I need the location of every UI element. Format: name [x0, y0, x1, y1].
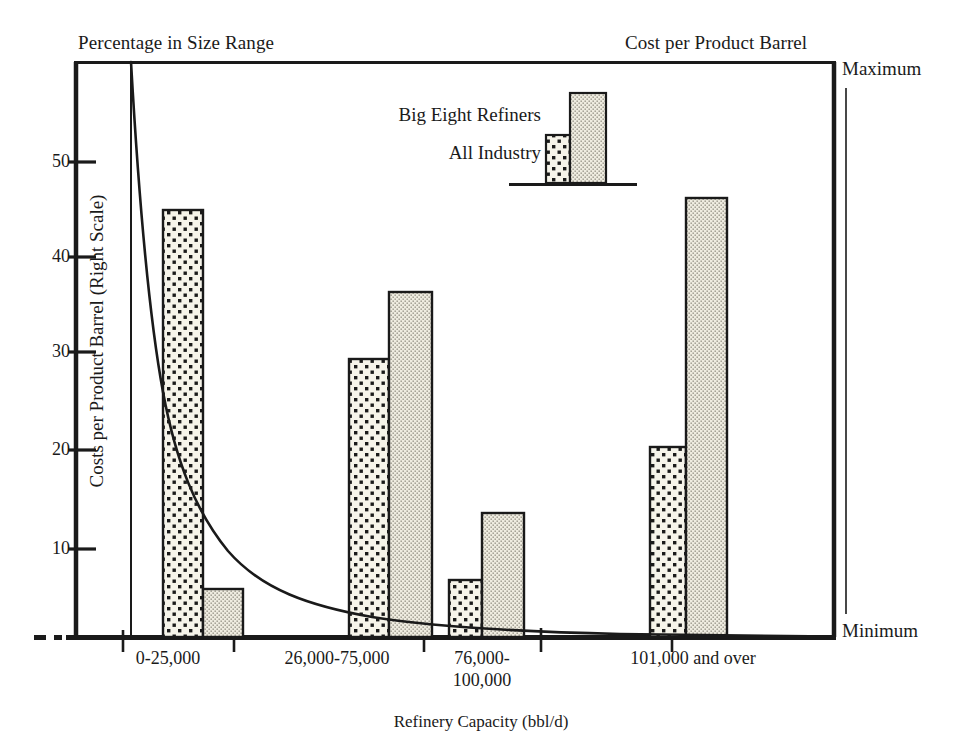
bar-big-eight-2	[482, 513, 524, 637]
legend-swatches	[509, 93, 637, 185]
bar-big-eight-1	[389, 292, 432, 637]
bar-big-eight-0	[203, 589, 243, 637]
bar-group-1	[349, 292, 432, 637]
legend-swatch-big-eight	[570, 93, 606, 183]
bar-group-3	[650, 198, 727, 637]
chart-plot-area	[0, 0, 962, 748]
legend-swatch-all-industry	[546, 135, 570, 183]
figure-caption: Refinery Capacity (bbl/d)	[0, 712, 962, 732]
bar-group-0	[163, 210, 243, 637]
bar-group-2	[449, 513, 524, 637]
y-axis-ticks	[68, 162, 96, 549]
bar-big-eight-3	[686, 198, 727, 637]
bar-all-industry-1	[349, 359, 389, 637]
chart-figure: Percentage in Size Range Cost per Produc…	[0, 0, 962, 748]
bar-all-industry-3	[650, 447, 686, 637]
